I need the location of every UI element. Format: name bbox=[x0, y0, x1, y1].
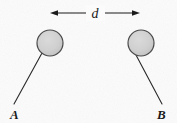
label-endpoint-a: A bbox=[9, 107, 19, 122]
sphere-a bbox=[37, 30, 63, 56]
label-endpoint-b: B bbox=[156, 107, 166, 122]
physics-diagram-figure: d A B bbox=[0, 0, 177, 123]
diagram-canvas: d A B bbox=[0, 0, 177, 123]
sphere-b bbox=[128, 30, 154, 56]
distance-label: d bbox=[92, 6, 100, 21]
